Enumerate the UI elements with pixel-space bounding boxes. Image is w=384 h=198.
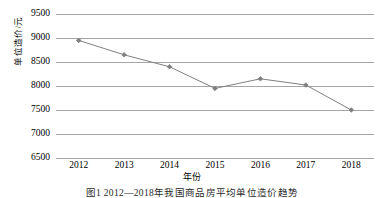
line-chart-svg (0, 0, 384, 170)
x-tick-label: 2014 (150, 160, 190, 171)
data-point-markers (76, 38, 353, 112)
x-tick-label: 2015 (195, 160, 235, 171)
x-tick-label: 2017 (286, 160, 326, 171)
figure-container: 单位造价/元 9500 9000 8500 8000 7500 7000 650… (0, 0, 384, 198)
x-tick-label: 2012 (59, 160, 99, 171)
x-axis-title: 年份 (0, 172, 384, 183)
data-point-marker (167, 65, 172, 70)
y-tick-label: 9500 (2, 9, 50, 19)
y-tick-label: 7000 (2, 129, 50, 139)
data-series-line (79, 40, 352, 110)
figure-caption: 图1 2012—2018年我国商品房平均单位造价趋势 (0, 188, 384, 198)
y-tick-label: 7500 (2, 105, 50, 115)
data-point-marker (349, 108, 354, 113)
x-tick-label: 2013 (104, 160, 144, 171)
y-axis-tick-labels: 9500 9000 8500 8000 7500 7000 6500 (0, 0, 52, 170)
y-tick-label: 8000 (2, 81, 50, 91)
y-tick-label: 8500 (2, 57, 50, 67)
x-tick-label: 2016 (240, 160, 280, 171)
y-tick-label: 9000 (2, 33, 50, 43)
x-tick-label: 2018 (331, 160, 371, 171)
data-point-marker (122, 53, 127, 58)
data-point-marker (258, 77, 263, 82)
chart-plot-area: 单位造价/元 9500 9000 8500 8000 7500 7000 650… (0, 0, 384, 170)
